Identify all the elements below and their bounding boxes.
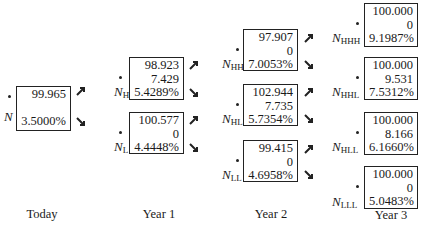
bond-value: 100.000: [369, 59, 413, 73]
time-label-today: Today: [12, 207, 72, 222]
arrow-down-right-icon: [76, 117, 86, 127]
coupon-value: 0: [369, 182, 413, 196]
short-rate: 5.4289%: [134, 86, 179, 100]
value-box: 102.944 7.735 5.7354%: [243, 84, 298, 126]
arrow-up-right-icon: [189, 60, 199, 70]
node-label: N: [4, 109, 13, 125]
arrow-down-right-icon: [304, 170, 314, 180]
node-label: NLL: [222, 167, 242, 183]
node-dot: [356, 22, 359, 25]
short-rate: 7.5312%: [369, 86, 413, 100]
coupon-value: 0: [248, 156, 293, 170]
node-label-text: N: [114, 139, 123, 154]
coupon-value: 0: [134, 128, 179, 142]
node-label-text: N: [332, 139, 341, 154]
time-label-year-3: Year 3: [361, 208, 421, 223]
value-box: 100.000 8.166 6.1660%: [364, 112, 418, 155]
node-dot: [236, 159, 239, 162]
short-rate: 9.1987%: [369, 32, 413, 46]
short-rate: 7.0053%: [248, 58, 293, 72]
bond-value: 100.577: [134, 114, 179, 128]
node-dot: [236, 103, 239, 106]
arrow-up-right-icon: [304, 33, 314, 43]
coupon-value: 0: [369, 19, 413, 33]
bond-value: 99.415: [248, 142, 293, 156]
node-label-text: N: [4, 109, 13, 124]
node-label: NL: [114, 139, 128, 155]
node-label-text: N: [222, 167, 231, 182]
bond-value: 100.000: [369, 168, 413, 182]
node-label-subscript: HHH: [341, 36, 361, 46]
short-rate: 4.4448%: [134, 141, 179, 155]
node-dot: [356, 131, 359, 134]
node-label-text: N: [332, 84, 341, 99]
spacer-line: [21, 102, 66, 116]
bond-value: 97.907: [248, 31, 293, 45]
value-box: 100.000 9.531 7.5312%: [364, 57, 418, 100]
bond-value: 100.000: [369, 114, 413, 128]
arrow-up-right-icon: [304, 87, 314, 97]
node-dot: [356, 185, 359, 188]
node-label-subscript: LLL: [341, 200, 358, 210]
node-label-text: N: [332, 194, 341, 209]
node-label-text: N: [222, 111, 231, 126]
node-label: NHLL: [332, 139, 358, 155]
node-label: NHHH: [332, 30, 360, 46]
node-dot: [8, 95, 11, 98]
arrow-up-right-icon: [76, 86, 86, 96]
value-box: 98.923 7.429 5.4289%: [129, 57, 184, 100]
arrow-up-right-icon: [189, 115, 199, 125]
time-label-year-1: Year 1: [129, 207, 189, 222]
node-label: NHL: [222, 111, 243, 127]
node-label-subscript: LL: [231, 173, 242, 183]
value-box: 99.415 0 4.6958%: [243, 140, 298, 182]
node-label-text: N: [222, 56, 231, 71]
node-label-text: N: [114, 84, 123, 99]
coupon-value: 9.531: [369, 73, 413, 87]
short-rate: 4.6958%: [248, 169, 293, 183]
node-label-subscript: HHL: [341, 90, 360, 100]
node-label-subscript: L: [123, 145, 129, 155]
node-label-subscript: HH: [231, 62, 244, 72]
bond-value: 102.944: [248, 86, 293, 100]
coupon-value: 7.429: [134, 73, 179, 87]
arrow-down-right-icon: [304, 114, 314, 124]
short-rate: 3.5000%: [21, 115, 66, 129]
arrow-down-right-icon: [189, 88, 199, 98]
time-label-year-2: Year 2: [241, 207, 301, 222]
bond-value: 98.923: [134, 59, 179, 73]
node-label-subscript: HL: [231, 117, 243, 127]
coupon-value: 0: [248, 45, 293, 59]
value-box: 99.965 3.5000%: [16, 86, 71, 131]
bond-value: 99.965: [21, 88, 66, 102]
node-label: NH: [114, 84, 129, 100]
node-label: NLLL: [332, 194, 357, 210]
short-rate: 6.1660%: [369, 141, 413, 155]
short-rate: 5.7354%: [248, 113, 293, 127]
node-dot: [236, 48, 239, 51]
node-dot: [356, 76, 359, 79]
arrow-down-right-icon: [189, 143, 199, 153]
short-rate: 5.0483%: [369, 195, 413, 209]
value-box: 100.577 0 4.4448%: [129, 112, 184, 154]
value-box: 100.000 0 9.1987%: [364, 3, 418, 47]
node-dot: [119, 76, 122, 79]
arrow-down-right-icon: [304, 60, 314, 70]
node-label: NHH: [222, 56, 244, 72]
bond-value: 100.000: [369, 5, 413, 19]
coupon-value: 7.735: [248, 100, 293, 114]
node-label-text: N: [332, 30, 341, 45]
node-dot: [119, 131, 122, 134]
coupon-value: 8.166: [369, 128, 413, 142]
value-box: 97.907 0 7.0053%: [243, 29, 298, 71]
node-label-subscript: HLL: [341, 145, 359, 155]
value-box: 100.000 0 5.0483%: [364, 166, 418, 209]
arrow-up-right-icon: [304, 144, 314, 154]
node-label: NHHL: [332, 84, 359, 100]
